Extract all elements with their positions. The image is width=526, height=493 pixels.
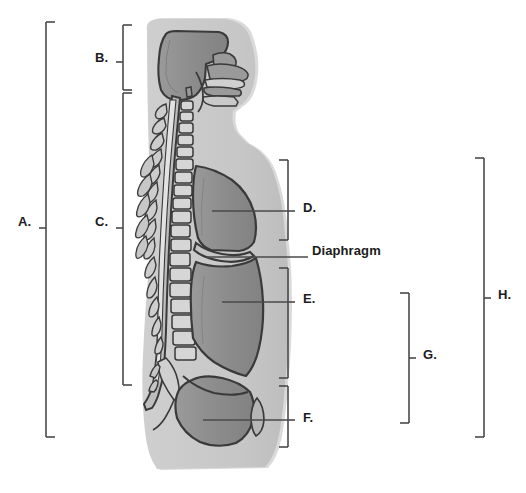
label-g: G. [423, 348, 437, 361]
bracket-b [116, 25, 132, 90]
label-b: B. [95, 51, 108, 64]
bracket-g [400, 293, 416, 423]
label-d: D. [303, 201, 316, 214]
label-c: C. [95, 215, 108, 228]
anatomy-illustration [0, 0, 526, 493]
label-h: H. [498, 288, 511, 301]
bracket-h [475, 158, 491, 437]
bracket-c [116, 93, 132, 385]
label-diaphragm: Diaphragm [312, 244, 381, 257]
figure-canvas: A.B.C.D.DiaphragmE.F.G.H. [0, 0, 526, 493]
label-e: E. [303, 292, 315, 305]
bracket-a [39, 22, 55, 437]
label-f: F. [303, 411, 313, 424]
label-a: A. [18, 215, 31, 228]
